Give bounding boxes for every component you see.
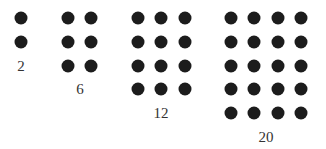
dot	[248, 83, 261, 96]
dot	[132, 59, 145, 72]
dot	[155, 35, 168, 48]
dot	[85, 12, 98, 25]
dot	[248, 35, 261, 48]
dot	[178, 59, 191, 72]
dot	[225, 107, 238, 120]
dot	[271, 83, 284, 96]
dot	[225, 35, 238, 48]
dot	[271, 59, 284, 72]
dot	[62, 35, 75, 48]
dot	[85, 35, 98, 48]
dot	[62, 59, 75, 72]
dot	[271, 35, 284, 48]
dot	[15, 12, 28, 25]
dot	[225, 83, 238, 96]
dot	[62, 12, 75, 25]
dot	[132, 35, 145, 48]
dot	[248, 107, 261, 120]
dot	[85, 59, 98, 72]
dot	[294, 83, 307, 96]
dot	[155, 12, 168, 25]
dot	[225, 12, 238, 25]
dot	[271, 12, 284, 25]
dot	[155, 59, 168, 72]
dot	[178, 12, 191, 25]
dot	[225, 59, 238, 72]
group-label-2: 2	[17, 58, 25, 73]
dot	[178, 35, 191, 48]
group-label-20: 20	[259, 129, 274, 144]
dot	[132, 83, 145, 96]
dot	[155, 83, 168, 96]
dot	[294, 12, 307, 25]
dot	[132, 12, 145, 25]
dot	[248, 12, 261, 25]
dot	[294, 107, 307, 120]
dot	[294, 59, 307, 72]
rectangular-numbers-diagram: 2 6 12 20	[0, 0, 326, 149]
dot	[178, 83, 191, 96]
group-label-12: 12	[154, 106, 169, 121]
dot	[248, 59, 261, 72]
dot	[15, 35, 28, 48]
group-label-6: 6	[76, 82, 84, 97]
dot	[294, 35, 307, 48]
dot	[271, 107, 284, 120]
